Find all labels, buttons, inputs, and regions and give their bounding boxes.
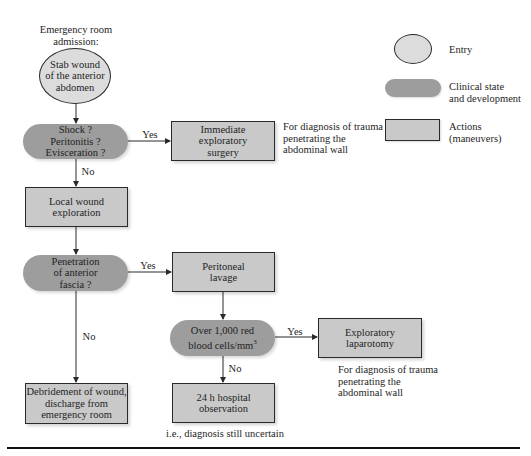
- node-shock-label: Shock ? Peritonitis ? Evisceration ?: [46, 124, 106, 159]
- node-stab-wound: Stab wound of the anterior abdomen: [39, 48, 111, 104]
- node-debridement: Debridement of wound, discharge from eme…: [25, 383, 128, 424]
- edge-label-rbc-no: No: [226, 363, 244, 375]
- legend-entry-icon: [394, 34, 432, 64]
- node-hospital-observation: 24 h hospital observation: [172, 383, 275, 423]
- entry-caption: Emergency room admission:: [30, 24, 122, 47]
- node-stab-wound-label: Stab wound of the anterior abdomen: [45, 59, 104, 94]
- note-observation: i.e., diagnosis still uncertain: [160, 428, 290, 440]
- edge-label-rbc-yes: Yes: [283, 326, 307, 338]
- rbc-superscript: 3: [253, 338, 257, 346]
- node-penetration-label: Penetration of anterior fascia ?: [52, 256, 100, 291]
- rbc-text: Over 1,000 red blood cells/mm: [188, 325, 254, 350]
- node-exploratory-laparotomy: Exploratory laparotomy: [318, 318, 422, 358]
- node-debridement-label: Debridement of wound, discharge from eme…: [26, 386, 126, 421]
- node-peritoneal-lavage: Peritoneal lavage: [172, 252, 275, 292]
- edge-label-shock-no: No: [79, 166, 97, 178]
- legend-entry-label: Entry: [449, 44, 529, 56]
- node-hospital-observation-label: 24 h hospital observation: [196, 392, 250, 415]
- legend-actions-label: Actions (maneuvers): [449, 121, 529, 144]
- node-peritoneal-lavage-label: Peritoneal lavage: [202, 261, 245, 284]
- edge-label-shock-yes: Yes: [138, 129, 162, 141]
- node-rbc-label: Over 1,000 red blood cells/mm3: [188, 325, 257, 351]
- legend-clinical-state-icon: [385, 79, 441, 97]
- node-local-wound-label: Local wound exploration: [49, 196, 104, 219]
- legend: Entry Clinical state and development Act…: [385, 30, 531, 150]
- bottom-rule: [7, 447, 520, 449]
- node-immediate-surgery: Immediate exploratory surgery: [171, 121, 275, 161]
- legend-actions-icon: [385, 119, 440, 141]
- legend-clinical-state-label: Clinical state and development: [449, 81, 531, 104]
- node-rbc-decision: Over 1,000 red blood cells/mm3: [170, 320, 275, 356]
- node-penetration-decision: Penetration of anterior fascia ?: [23, 255, 128, 291]
- edge-label-penetration-no: No: [80, 331, 98, 343]
- node-immediate-surgery-label: Immediate exploratory surgery: [199, 124, 247, 159]
- node-local-wound-exploration: Local wound exploration: [25, 187, 128, 227]
- node-shock-decision: Shock ? Peritonitis ? Evisceration ?: [23, 124, 128, 159]
- node-exploratory-laparotomy-label: Exploratory laparotomy: [345, 327, 395, 350]
- edge-label-penetration-yes: Yes: [136, 260, 160, 272]
- note-laparotomy: For diagnosis of trauma penetrating the …: [338, 364, 458, 399]
